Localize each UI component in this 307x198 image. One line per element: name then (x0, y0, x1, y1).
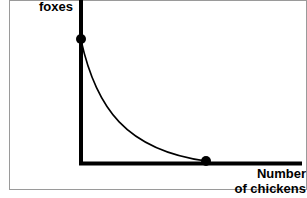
x-axis-label: Number of chickens (218, 166, 306, 196)
curve-start-dot (76, 34, 86, 44)
x-axis-label-line-2: of chickens (218, 181, 306, 196)
graph-screenshot: foxes Number of chickens (0, 0, 307, 198)
decay-curve (81, 40, 206, 161)
y-axis-label: foxes (39, 0, 73, 14)
x-axis-label-line-1: Number (218, 166, 306, 181)
curve-end-dot (201, 156, 211, 166)
